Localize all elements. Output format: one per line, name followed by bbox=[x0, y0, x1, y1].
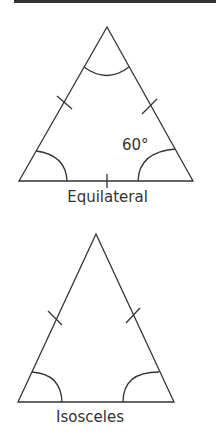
isosceles-triangle bbox=[18, 234, 174, 402]
isosceles-label: Isosceles bbox=[40, 408, 140, 426]
isosceles-left-angle-arc bbox=[32, 372, 62, 402]
isosceles-right-tick bbox=[126, 308, 140, 323]
triangles-diagram bbox=[0, 0, 219, 446]
equilateral-label: Equilateral bbox=[50, 188, 165, 206]
equilateral-triangle bbox=[19, 27, 193, 181]
angle-label-60: 60° bbox=[122, 136, 149, 154]
equilateral-apex-angle-arc bbox=[84, 67, 129, 76]
isosceles-right-angle-arc bbox=[123, 372, 159, 402]
equilateral-left-angle-arc bbox=[36, 151, 67, 181]
equilateral-left-tick bbox=[57, 96, 72, 109]
